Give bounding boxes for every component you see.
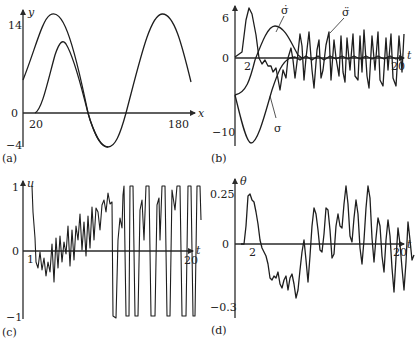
b-xtick-2: 2 — [244, 60, 251, 73]
figure-canvas: y x 14 0 −4 20 180 (a) σ̇ σ̈ σ t 6 0 −10… — [0, 0, 416, 348]
a-xtick-20: 20 — [29, 118, 43, 131]
panel-c: u t 1 0 −1 1 20 (c) — [2, 177, 201, 339]
d-theta-curve — [241, 186, 414, 298]
a-panel-label: (a) — [2, 152, 17, 165]
a-ytick-14: 14 — [8, 19, 22, 32]
c-ytick-1: 1 — [12, 181, 19, 194]
a-ylabel: y — [27, 6, 35, 19]
b-sigma-curve — [235, 56, 402, 143]
d-ytick-025: 0.25 — [210, 188, 235, 201]
b-xtick-20: 20 — [391, 60, 405, 73]
b-sigma-ddot-label: σ̈ — [342, 6, 350, 19]
d-ylabel: θ — [240, 175, 247, 188]
d-ytick-neg03: −0.3 — [210, 301, 237, 314]
b-sigma-ddot-leader — [330, 18, 344, 33]
c-ytick-neg1: −1 — [6, 311, 22, 324]
b-xlabel: t — [407, 49, 412, 62]
d-xtick-20: 20 — [393, 246, 407, 259]
c-xtick-1: 1 — [27, 253, 34, 266]
panel-a: y x 14 0 −4 20 180 (a) — [2, 6, 205, 165]
a-xlabel: x — [198, 107, 205, 120]
b-sigma-label: σ — [274, 122, 282, 135]
a-ytick-neg4: −4 — [6, 139, 22, 152]
c-xtick-20: 20 — [184, 254, 198, 267]
b-panel-label: (b) — [211, 152, 227, 165]
d-xtick-2: 2 — [249, 246, 256, 259]
d-ytick-0: 0 — [222, 238, 229, 251]
b-ytick-neg10: −10 — [212, 126, 235, 139]
c-panel-label: (c) — [2, 326, 17, 339]
b-ytick-0: 0 — [222, 52, 229, 65]
panel-b: σ̇ σ̈ σ t 6 0 −10 2 20 (b) — [211, 4, 412, 165]
panel-d: θ t 0.25 0 −0.3 2 20 (d) — [210, 175, 414, 337]
a-xtick-180: 180 — [168, 118, 189, 131]
b-sigma-dot-label: σ̇ — [281, 4, 289, 17]
b-ytick-6: 6 — [222, 12, 229, 25]
d-panel-label: (d) — [211, 324, 227, 337]
a-ytick-0: 0 — [11, 107, 18, 120]
c-ylabel: u — [27, 177, 34, 190]
d-xlabel: t — [407, 238, 412, 251]
a-output-curve — [35, 42, 108, 147]
c-ytick-0: 0 — [12, 245, 19, 258]
c-u-curve — [32, 186, 201, 318]
b-sigma-ddot-curve — [235, 8, 404, 90]
b-sigma-leader — [270, 96, 276, 118]
